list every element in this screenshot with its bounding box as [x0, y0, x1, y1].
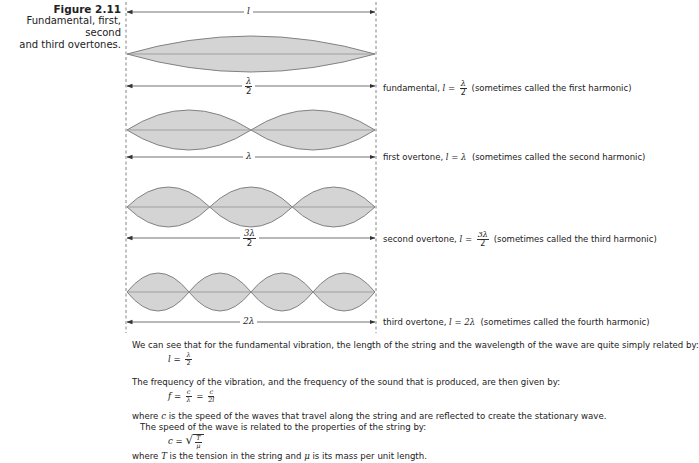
- second-overtone-wave: [127, 187, 375, 227]
- first-overtone-wave: [127, 110, 375, 150]
- paragraph-4: The speed of the wave is related to the …: [140, 422, 426, 433]
- fundamental-dimension-label: λ2: [242, 77, 255, 96]
- second-overtone-dimension-label: 3λ2: [240, 229, 259, 248]
- equation-2: f = cλ = c2l: [168, 389, 216, 403]
- square-root: √Tμ: [186, 434, 204, 449]
- third-overtone-wave: [127, 273, 375, 311]
- paragraph-2: The frequency of the vibration, and the …: [132, 377, 560, 388]
- equation-3: c = √Tμ: [168, 434, 204, 449]
- second-overtone-description: second overtone, l = 3λ2 (sometimes call…: [383, 231, 657, 248]
- first-overtone-dimension-label: λ: [243, 152, 255, 161]
- equation-1: l = λ2: [168, 352, 194, 366]
- paragraph-3: where c is the speed of the waves that t…: [132, 411, 606, 422]
- paragraph-5: where T is the tension in the string and…: [132, 451, 427, 462]
- first-overtone-description: first overtone, l = λ (sometimes called …: [383, 152, 645, 163]
- fundamental-wave: [127, 36, 375, 72]
- third-overtone-dimension-label: 2λ: [240, 317, 257, 326]
- third-overtone-description: third overtone, l = 2λ (sometimes called…: [383, 317, 650, 328]
- length-label: l: [244, 7, 253, 16]
- paragraph-1: We can see that for the fundamental vibr…: [132, 340, 699, 351]
- fundamental-description: fundamental, l = λ2 (sometimes called th…: [383, 80, 631, 97]
